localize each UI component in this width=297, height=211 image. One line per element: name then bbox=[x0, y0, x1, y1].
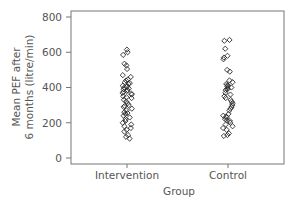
data-point-intervention bbox=[128, 74, 133, 79]
y-axis: 0200400600800 bbox=[42, 11, 71, 164]
data-point-control bbox=[228, 92, 233, 97]
data-point-intervention bbox=[120, 73, 125, 78]
data-points bbox=[120, 37, 235, 141]
data-point-control bbox=[225, 53, 230, 58]
y-axis-title-line1: Mean PEF after bbox=[10, 47, 22, 127]
x-tick-label-control: Control bbox=[209, 169, 247, 181]
data-point-control bbox=[223, 46, 228, 51]
y-axis-title-line2: 6 months (litre/min) bbox=[23, 35, 35, 140]
data-point-intervention bbox=[121, 52, 126, 57]
data-point-intervention bbox=[125, 50, 130, 55]
y-tick-label: 600 bbox=[42, 46, 62, 58]
data-point-control bbox=[222, 38, 227, 43]
x-axis: InterventionControl bbox=[95, 164, 247, 181]
x-axis-title: Group bbox=[163, 185, 195, 197]
strip-chart: 0200400600800 InterventionControl Mean P… bbox=[0, 0, 297, 211]
x-tick-label-intervention: Intervention bbox=[95, 169, 159, 181]
y-tick-label: 0 bbox=[55, 152, 62, 164]
y-tick-label: 800 bbox=[42, 11, 62, 23]
data-point-control bbox=[227, 37, 232, 42]
data-point-intervention bbox=[124, 47, 129, 52]
plot-frame bbox=[71, 11, 284, 164]
y-tick-label: 400 bbox=[42, 81, 62, 93]
y-tick-label: 200 bbox=[42, 117, 62, 129]
